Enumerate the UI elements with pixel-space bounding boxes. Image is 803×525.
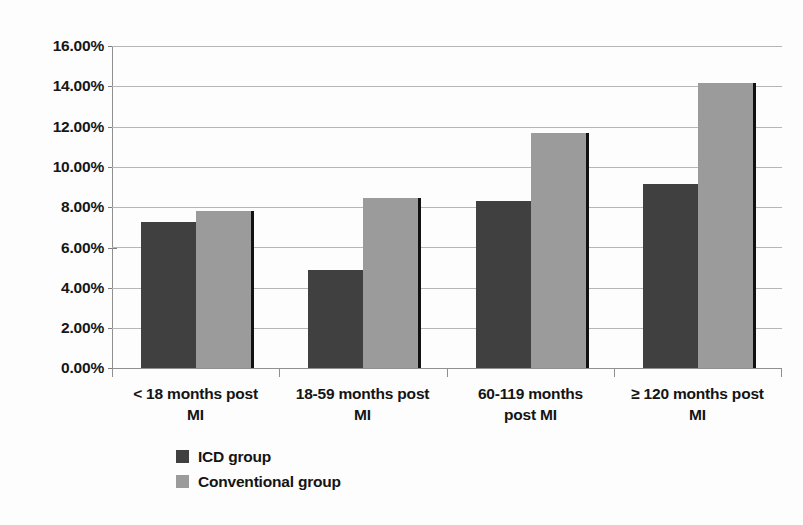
bar-conventional-3[interactable]	[698, 83, 753, 368]
x-label-1-line-1: 18-59 months post	[279, 383, 446, 404]
bar-icd-2[interactable]	[476, 201, 531, 368]
legend-swatch-icon-icd	[176, 450, 189, 463]
y-tick-label-2: 2.00%	[12, 319, 104, 337]
bar-conventional-2[interactable]	[531, 133, 586, 368]
bar-conventional-1[interactable]	[363, 198, 418, 368]
y-axis-labels: 16.00% 14.00% 12.00% 10.00% 8.00% 6.00% …	[0, 0, 104, 525]
y-tick-label-16: 16.00%	[12, 37, 104, 55]
x-label-3-line-1: ≥ 120 months post	[614, 383, 781, 404]
x-tick-mark-1	[279, 369, 280, 377]
x-label-2: 60-119 months post MI	[447, 383, 614, 425]
y-tick-label-14: 14.00%	[12, 77, 104, 95]
legend-item-conventional[interactable]: Conventional group	[176, 469, 341, 494]
x-tick-mark-3	[614, 369, 615, 377]
x-label-1: 18-59 months post MI	[279, 383, 446, 425]
legend-swatch-icon-conventional	[176, 475, 189, 488]
y-tick-label-0: 0.00%	[12, 359, 104, 377]
bar-group-3	[615, 46, 783, 368]
x-label-2-line-2: post MI	[447, 404, 614, 425]
chart-legend: ICD group Conventional group	[176, 444, 341, 494]
x-label-3-line-2: MI	[614, 404, 781, 425]
bars	[112, 46, 782, 368]
bar-icd-3[interactable]	[643, 184, 698, 368]
legend-item-icd[interactable]: ICD group	[176, 444, 341, 469]
y-tick-label-12: 12.00%	[12, 118, 104, 136]
x-label-0-line-1: < 18 months post	[112, 383, 279, 404]
bar-group-1	[280, 46, 448, 368]
y-tick-label-10: 10.00%	[12, 158, 104, 176]
bar-group-2	[447, 46, 615, 368]
y-tick-label-8: 8.00%	[12, 198, 104, 216]
x-label-0: < 18 months post MI	[112, 383, 279, 425]
legend-label-conventional: Conventional group	[198, 473, 341, 491]
legend-label-icd: ICD group	[198, 448, 271, 466]
x-label-2-line-1: 60-119 months	[447, 383, 614, 404]
y-tick-label-6: 6.00%	[12, 239, 104, 257]
plot-area	[112, 46, 782, 368]
y-tick-label-4: 4.00%	[12, 279, 104, 297]
x-tick-mark-0	[112, 369, 113, 377]
bar-icd-0[interactable]	[141, 222, 196, 368]
x-tick-mark-4	[781, 369, 782, 377]
x-tick-mark-2	[447, 369, 448, 377]
bar-icd-1[interactable]	[308, 270, 363, 368]
bar-chart: 16.00% 14.00% 12.00% 10.00% 8.00% 6.00% …	[0, 0, 803, 525]
bar-conventional-0[interactable]	[196, 211, 251, 368]
x-label-0-line-2: MI	[112, 404, 279, 425]
x-label-3: ≥ 120 months post MI	[614, 383, 781, 425]
bar-group-0	[112, 46, 280, 368]
x-label-1-line-2: MI	[279, 404, 446, 425]
